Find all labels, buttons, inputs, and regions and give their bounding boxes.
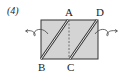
problem-number: (4) bbox=[7, 6, 19, 16]
vertex-label-b: B bbox=[38, 62, 45, 73]
vertex-label-a: A bbox=[65, 7, 73, 18]
vertex-label-d: D bbox=[96, 7, 104, 18]
paper-rectangle bbox=[41, 20, 98, 59]
figure: (4) A D B C bbox=[0, 0, 124, 78]
vertex-label-c: C bbox=[67, 62, 74, 73]
